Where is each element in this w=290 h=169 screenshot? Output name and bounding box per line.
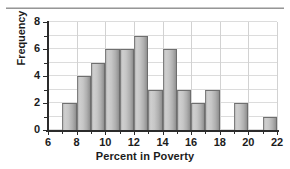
histogram-bar	[77, 76, 91, 130]
histogram-bar	[177, 90, 191, 131]
histogram-bar	[62, 103, 76, 130]
x-axis-tick	[191, 131, 192, 135]
x-axis-tick	[77, 131, 78, 135]
x-axis-title: Percent in Poverty	[0, 150, 290, 162]
x-axis-tick-label: 16	[179, 136, 203, 148]
y-axis-tick	[43, 22, 48, 23]
x-axis-tick-minor	[234, 131, 235, 134]
y-axis-tick	[43, 103, 48, 104]
x-axis-tick	[163, 131, 164, 135]
histogram-bar	[234, 103, 248, 130]
x-axis-tick-minor	[91, 131, 92, 134]
x-axis-tick-minor	[62, 131, 63, 134]
y-axis-tick-minor	[44, 90, 48, 91]
y-axis-tick-minor	[44, 63, 48, 64]
x-axis-tick-minor	[120, 131, 121, 134]
gridline-vertical	[277, 22, 278, 130]
x-axis-tick-label: 8	[65, 136, 89, 148]
x-axis-tick-label: 14	[151, 136, 175, 148]
histogram-bar	[148, 90, 162, 131]
y-axis-tick-label: 6	[26, 42, 40, 54]
x-axis-tick	[248, 131, 249, 135]
x-axis-tick-label: 6	[36, 136, 60, 148]
y-axis-tick-label: 4	[26, 69, 40, 81]
page-divider-rule	[6, 7, 284, 9]
y-axis-tick-minor	[44, 36, 48, 37]
x-axis-tick	[48, 131, 49, 135]
y-axis-tick	[43, 49, 48, 50]
x-axis-tick-label: 18	[208, 136, 232, 148]
x-axis-tick	[134, 131, 135, 135]
histogram-figure: Frequency Percent in Poverty 68101214161…	[0, 0, 290, 169]
histogram-bar	[163, 49, 177, 130]
y-axis-tick	[43, 130, 48, 131]
plot-area	[48, 22, 277, 130]
histogram-bar	[91, 63, 105, 131]
y-axis-tick	[43, 76, 48, 77]
y-axis-tick-label: 8	[26, 15, 40, 27]
x-axis-tick-minor	[205, 131, 206, 134]
y-axis-tick-label: 2	[26, 96, 40, 108]
gridline-vertical	[220, 22, 221, 130]
x-axis-tick-minor	[263, 131, 264, 134]
histogram-bar	[191, 103, 205, 130]
x-axis-tick-minor	[148, 131, 149, 134]
x-axis-tick	[220, 131, 221, 135]
gridline-vertical	[248, 22, 249, 130]
histogram-bar	[120, 49, 134, 130]
y-axis-tick-minor	[44, 117, 48, 118]
x-axis-tick-label: 22	[265, 136, 289, 148]
x-axis-tick	[105, 131, 106, 135]
x-axis-tick-label: 10	[93, 136, 117, 148]
histogram-bar	[263, 117, 277, 131]
x-axis-tick	[277, 131, 278, 135]
y-axis-tick-label: 0	[26, 123, 40, 135]
histogram-bar	[205, 90, 219, 131]
x-axis-tick-label: 12	[122, 136, 146, 148]
histogram-bar	[134, 36, 148, 131]
x-axis-tick-minor	[177, 131, 178, 134]
histogram-bar	[105, 49, 119, 130]
x-axis-tick-label: 20	[236, 136, 260, 148]
